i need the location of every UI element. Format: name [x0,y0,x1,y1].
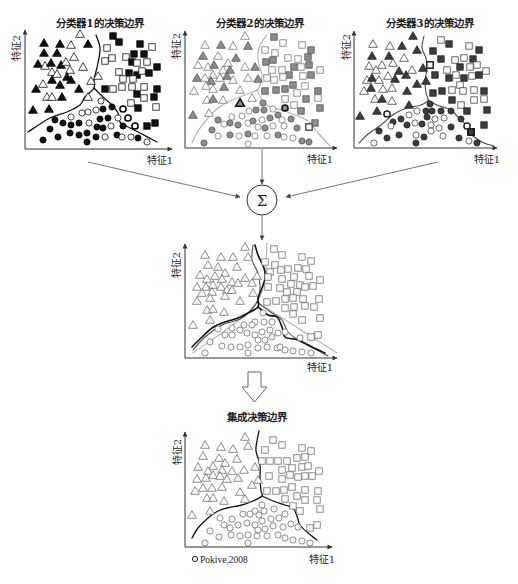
square-marker [438,56,444,62]
triangle-marker [236,99,245,107]
circle-marker [281,134,287,140]
triangle-marker [400,54,409,62]
circle-marker [262,526,268,532]
square-marker [282,296,288,302]
square-marker [273,87,279,93]
triangle-marker [219,96,228,104]
square-marker [153,104,159,110]
square-marker [272,50,278,56]
circle-marker [464,123,470,129]
square-marker [466,43,472,49]
panel-title: 分类器2的决策边界 [216,17,304,29]
square-marker [294,493,300,499]
plot-area [189,243,337,356]
triangle-marker [386,42,395,50]
circle-marker [207,528,213,534]
triangle-marker [228,467,237,475]
circle-marker [105,115,111,121]
circle-marker [202,540,208,546]
circle-marker [271,506,277,512]
triangle-marker [201,251,210,259]
circle-marker [267,327,273,333]
square-marker [267,458,273,464]
circle-marker [294,125,300,131]
square-marker [471,87,477,93]
circle-marker [275,132,281,138]
arrow-from-classifier-3 [286,162,438,197]
circle-marker [228,532,234,538]
circle-marker [253,107,259,113]
square-marker [314,522,320,528]
square-marker [110,86,116,92]
triangle-marker [215,454,224,462]
square-marker [279,467,285,473]
square-marker [128,100,134,106]
circle-marker [281,123,287,129]
square-marker [306,62,312,68]
circle-marker [216,534,222,540]
circle-marker [261,319,267,325]
circle-marker [288,521,294,527]
triangle-marker [422,77,431,85]
square-marker [282,86,288,92]
square-marker [316,468,322,474]
circle-marker [47,126,53,132]
square-marker [299,254,305,260]
triangle-marker [193,283,202,291]
triangle-marker [385,52,394,60]
circle-marker [244,520,250,526]
square-marker [315,88,321,94]
triangle-marker [244,74,253,82]
circle-marker [423,108,429,114]
square-marker [119,84,125,90]
circle-marker [215,117,221,123]
square-marker [317,277,323,283]
plot-area [188,431,324,546]
panel-ensemble: 集成决策边界 特征2 特征1 [172,411,336,565]
square-marker [476,47,482,53]
square-marker [137,41,143,47]
hollow-down-arrow-icon [242,372,267,402]
circle-marker [227,525,233,531]
triangle-marker [251,463,260,471]
square-marker [144,123,150,129]
square-marker [302,487,308,493]
circle-marker [259,117,265,123]
square-marker [277,285,283,291]
triangle-marker [218,466,227,474]
square-marker [139,68,145,74]
triangle-marker [408,66,417,74]
circle-marker [245,342,251,348]
circle-marker [429,108,435,114]
triangle-marker [217,443,226,451]
triangle-marker [375,76,384,84]
circle-marker [306,139,312,145]
circle-marker [299,138,305,144]
circle-marker [371,140,377,146]
square-marker [317,105,323,111]
circle-marker [119,134,125,140]
circle-marker [384,111,390,117]
circle-marker [307,540,313,546]
circle-marker [406,112,412,118]
square-marker [262,47,268,53]
triangle-marker [251,63,260,71]
square-marker [484,107,490,113]
circle-marker [144,139,150,145]
circle-marker [299,349,305,355]
square-marker [481,96,487,102]
square-marker [280,40,286,46]
circle-marker [228,344,234,350]
triangle-marker [378,95,387,103]
square-marker [317,67,323,73]
square-marker [315,95,321,101]
circle-marker [268,516,274,522]
triangle-marker [229,445,238,453]
circle-marker [245,532,251,538]
circle-marker [237,327,243,333]
circle-marker [428,128,434,134]
circle-marker [100,106,106,112]
square-marker [295,265,301,271]
circle-marker [448,108,454,114]
circle-marker [128,134,134,140]
